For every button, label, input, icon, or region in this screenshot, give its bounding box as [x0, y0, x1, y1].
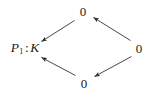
edge-bottom-to-left — [42, 58, 76, 76]
node-left-object: P1:K — [11, 41, 40, 56]
edge-right-to-bottom — [95, 57, 132, 77]
commutative-diagram: P1:K 0 0 0 — [0, 0, 148, 96]
node-right-zero: 0 — [136, 42, 143, 55]
node-left-subscript: 1 — [19, 48, 23, 57]
node-left-ring: K — [30, 40, 39, 55]
node-bottom-zero: 0 — [81, 77, 88, 90]
node-left-separator: : — [25, 40, 29, 55]
node-top-zero: 0 — [80, 5, 87, 18]
edge-top-to-left — [42, 21, 75, 42]
edge-right-to-top — [94, 18, 131, 41]
